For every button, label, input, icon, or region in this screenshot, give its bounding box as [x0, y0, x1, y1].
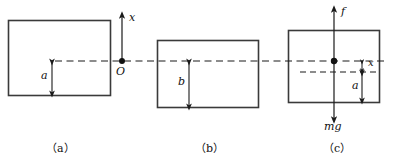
panel-a-block — [9, 21, 111, 96]
panel-b-group — [158, 41, 259, 108]
panel-b-caption: （b） — [195, 139, 224, 155]
panel-a-group — [9, 15, 126, 96]
panel-c-force-down-label: mg — [324, 120, 341, 133]
panel-c-group — [289, 9, 380, 120]
panel-c-depth-label: a — [352, 79, 359, 92]
panel-a-caption: （a） — [46, 139, 75, 155]
panel-a-origin-label: O — [116, 65, 125, 78]
panel-c-force-up-label: f — [341, 5, 345, 18]
physics-figure: a x O b f mg x a （a） （b） （c） — [0, 0, 394, 164]
panel-a-depth-label: a — [41, 69, 48, 82]
panel-a-axis-label: x — [129, 11, 135, 24]
panel-c-caption: （c） — [323, 139, 351, 155]
panel-c-displacement-label: x — [368, 57, 374, 68]
panel-b-block — [158, 41, 259, 108]
panel-b-depth-label: b — [178, 75, 185, 88]
